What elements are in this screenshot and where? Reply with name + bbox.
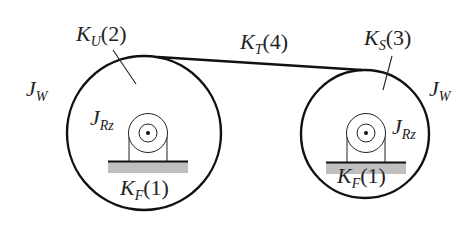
label-jrz-left: JRz — [90, 105, 114, 133]
label-kt: KT(4) — [239, 29, 288, 57]
label-jrz-right: JRz — [392, 114, 416, 142]
label-jw-left: JW — [26, 76, 49, 104]
label-kf-right: KF(1) — [336, 163, 386, 191]
left-axle-dot — [146, 131, 150, 135]
belt-drive-diagram: KU(2) KT(4) KS(3) JW JW JRz JRz KF(1) KF… — [0, 0, 467, 229]
label-ks: KS(3) — [363, 25, 411, 53]
label-jw-right: JW — [429, 76, 452, 104]
right-axle-dot — [364, 131, 368, 135]
belt-span — [158, 57, 362, 70]
left-base-band — [108, 162, 188, 173]
left-bearing — [108, 114, 188, 174]
label-kf-left: KF(1) — [119, 175, 169, 203]
ku-pointer — [113, 50, 136, 84]
label-ku: KU(2) — [75, 21, 126, 49]
